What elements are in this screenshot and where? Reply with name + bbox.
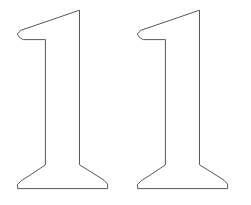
numerals-illustration [0, 0, 251, 205]
image-canvas [0, 0, 251, 205]
